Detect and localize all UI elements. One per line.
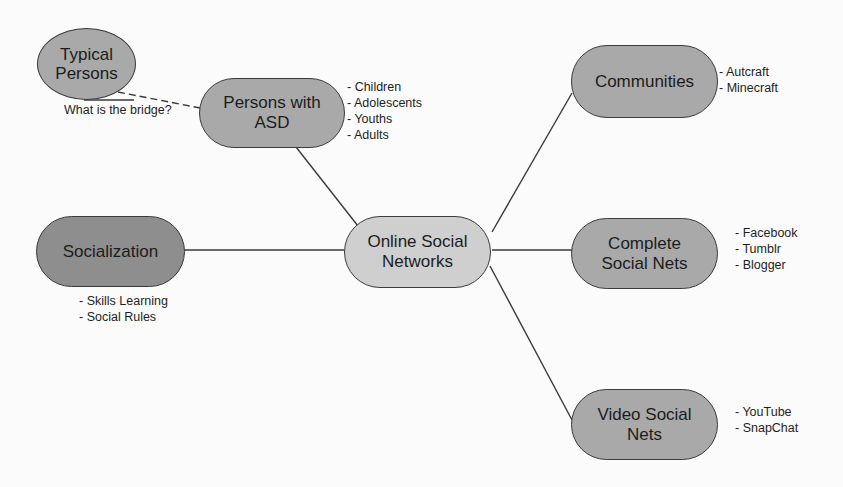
- list-item: - Minecraft: [719, 80, 778, 96]
- list-item: - Social Rules: [79, 309, 168, 325]
- list-item: - YouTube: [735, 404, 798, 420]
- node-video-social-nets: Video Social Nets: [571, 389, 718, 460]
- edge-center-video: [490, 266, 572, 420]
- list-item: - SnapChat: [735, 420, 798, 436]
- list-item: - Blogger: [735, 257, 798, 273]
- node-label: Socialization: [63, 242, 158, 262]
- node-label: Communities: [595, 72, 694, 92]
- list-item: - Youths: [347, 111, 422, 127]
- node-typical-persons: Typical Persons: [37, 28, 136, 100]
- bridge-question-label: What is the bridge?: [64, 103, 172, 117]
- list-item: - Tumblr: [735, 241, 798, 257]
- socialization-list: - Skills Learning - Social Rules: [79, 293, 168, 325]
- video-social-nets-list: - YouTube - SnapChat: [735, 404, 798, 436]
- node-online-social-networks: Online Social Networks: [344, 216, 491, 288]
- node-label: Online Social Networks: [367, 232, 467, 272]
- list-item: - Adolescents: [347, 95, 422, 111]
- list-item: - Autcraft: [719, 64, 778, 80]
- communities-list: - Autcraft - Minecraft: [719, 64, 778, 96]
- node-socialization: Socialization: [36, 216, 185, 287]
- persons-asd-list: - Children - Adolescents - Youths - Adul…: [347, 79, 422, 143]
- complete-social-nets-list: - Facebook - Tumblr - Blogger: [735, 225, 798, 273]
- node-label: Persons with ASD: [223, 93, 320, 133]
- list-item: - Skills Learning: [79, 293, 168, 309]
- list-item: - Children: [347, 79, 422, 95]
- node-label: Complete Social Nets: [602, 234, 688, 274]
- node-complete-social-nets: Complete Social Nets: [571, 218, 718, 289]
- node-label: Typical Persons: [55, 45, 117, 83]
- node-label: Video Social Nets: [597, 405, 691, 445]
- edge-center-communities: [492, 93, 572, 232]
- node-communities: Communities: [571, 45, 718, 118]
- node-persons-with-asd: Persons with ASD: [199, 78, 345, 148]
- list-item: - Facebook: [735, 225, 798, 241]
- list-item: - Adults: [347, 127, 422, 143]
- edge-center-persons-asd: [296, 147, 358, 226]
